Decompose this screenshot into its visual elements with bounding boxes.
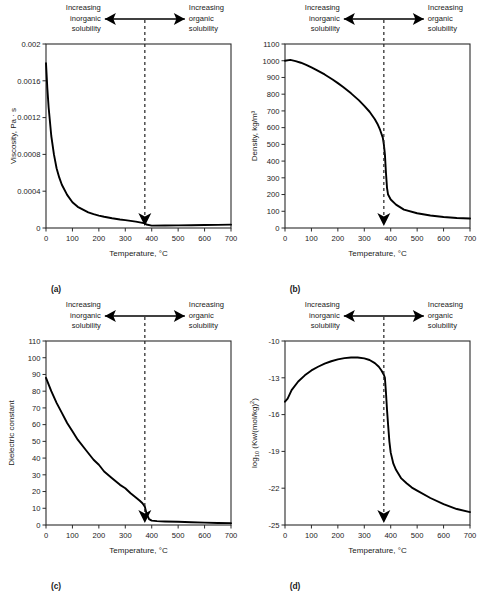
y-tick-label: 100 [267,207,280,216]
x-tick-label: 500 [411,531,424,540]
y-axis-title: Viscosity, Pa · s [9,108,18,164]
x-tick-label: 200 [332,531,345,540]
y-tick-label: 0.0016 [17,77,40,86]
x-tick-label: 600 [198,531,211,540]
annotation-right-line: organic [428,14,453,23]
x-tick-label: 300 [358,531,371,540]
annotation-right-line: solubility [428,24,457,33]
x-tick-label: 0 [283,234,287,243]
x-tick-label: 600 [437,531,450,540]
annotation-left-line: inorganic [70,311,101,320]
x-tick-label: 100 [66,531,79,540]
annotation-right-line: organic [189,14,214,23]
annotation-left-line: inorganic [70,14,101,23]
x-tick-label: 200 [93,234,106,243]
annotation-left-line: solubility [72,321,101,330]
annotation-left-line: solubility [72,24,101,33]
y-tick-label: 500 [267,140,280,149]
y-tick-label: 60 [32,420,40,429]
x-tick-label: 100 [305,234,318,243]
x-axis-title: Temperature, °C [348,546,407,555]
x-axis: 0100200300400500600700Temperature, °C [283,228,476,258]
y-tick-label: 600 [267,123,280,132]
x-tick-label: 300 [358,234,371,243]
x-tick-label: 700 [225,234,238,243]
y-tick-label: 50 [32,437,40,446]
x-axis: 0100200300400500600700Temperature, °C [283,525,476,555]
y-tick-label: 110 [28,337,40,346]
y-tick-label: 20 [32,487,40,496]
annotation-right-line: Increasing [189,300,224,309]
x-axis-title: Temperature, °C [348,249,407,258]
x-axis: 0100200300400500600700Temperature, °C [44,228,237,258]
y-tick-label: 1000 [263,57,280,66]
plot-frame [46,44,231,228]
y-tick-label: 1100 [263,40,279,49]
panel-d: IncreasinginorganicsolubilityIncreasingo… [239,297,477,593]
x-tick-label: 300 [119,531,132,540]
chart-c: IncreasinginorganicsolubilityIncreasingo… [0,297,238,593]
y-tick-label: 800 [267,90,280,99]
panel-letter: (a) [51,284,61,294]
panel-b: IncreasinginorganicsolubilityIncreasingo… [239,0,477,296]
x-tick-label: 0 [44,531,48,540]
y-axis-title: log10 (Kw/(mol/kg)2) [249,398,260,468]
y-tick-label: 80 [32,387,40,396]
data-curve [285,358,470,513]
y-tick-label: 900 [267,73,280,82]
annotation-right-line: solubility [428,321,457,330]
y-tick-label: 200 [267,190,280,199]
y-tick-label: 90 [32,370,40,379]
plot-frame [285,44,470,228]
y-tick-label: -16 [269,410,280,419]
y-tick-label: 0.0012 [17,113,40,122]
y-tick-label: 40 [32,454,40,463]
y-tick-label: 400 [267,157,280,166]
x-tick-label: 200 [332,234,345,243]
y-axis: 0102030405060708090100110 [28,337,46,530]
panel-a: IncreasinginorganicsolubilityIncreasingo… [0,0,238,296]
annotation-right-line: organic [428,311,453,320]
x-tick-label: 300 [119,234,132,243]
x-tick-label: 400 [145,234,158,243]
annotation-right-line: Increasing [189,3,224,12]
y-tick-label: 100 [28,354,41,363]
x-tick-label: 500 [172,234,185,243]
y-tick-label: 0.0008 [17,150,40,159]
y-tick-label: 0 [275,224,279,233]
y-tick-label: 0.002 [21,40,40,49]
y-axis: 00.00040.00080.00120.00160.002 [17,40,46,233]
annotation-right-line: Increasing [428,3,463,12]
annotation-right-line: solubility [189,24,218,33]
annotation-right-line: organic [189,311,214,320]
panel-letter: (c) [51,581,61,591]
y-tick-label: 30 [32,471,40,480]
chart-b: IncreasinginorganicsolubilityIncreasingo… [239,0,477,296]
plot-frame [285,341,470,525]
y-tick-label: 10 [32,504,40,513]
annotation-left-line: solubility [311,24,340,33]
y-tick-label: 0.0004 [17,187,40,196]
y-axis: 010020030040050060070080090010001100 [263,40,285,233]
y-tick-label: 0 [36,224,40,233]
x-tick-label: 700 [464,531,477,540]
x-tick-label: 500 [172,531,185,540]
annotation-left-line: inorganic [309,311,340,320]
y-tick-label: -13 [269,374,280,383]
x-tick-label: 400 [145,531,158,540]
x-tick-label: 700 [225,531,238,540]
panel-letter: (b) [290,284,301,294]
data-curve [46,63,231,225]
x-tick-label: 100 [305,531,318,540]
x-tick-label: 600 [198,234,211,243]
data-curve [285,60,470,219]
annotation-left-line: Increasing [66,3,101,12]
x-tick-label: 700 [464,234,477,243]
panel-c: IncreasinginorganicsolubilityIncreasingo… [0,297,238,593]
annotation-left-line: Increasing [66,300,101,309]
y-tick-label: -25 [269,521,280,530]
x-tick-label: 0 [283,531,287,540]
y-tick-label: 700 [267,107,280,116]
annotation-left-line: Increasing [305,3,340,12]
x-tick-label: 400 [384,234,397,243]
